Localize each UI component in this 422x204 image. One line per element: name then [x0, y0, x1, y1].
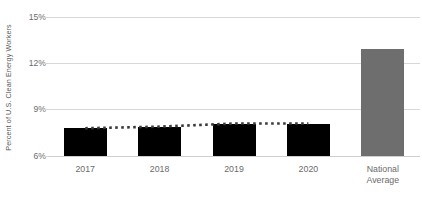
- x-tick-label-2018: 2018: [122, 164, 196, 175]
- x-tick-label-2017: 2017: [48, 164, 122, 175]
- x-tick-label-2020-line1: 2020: [271, 164, 345, 175]
- x-tick-label-national-average-line2: Average: [346, 175, 420, 186]
- tick-mark-15: [43, 17, 48, 18]
- x-tick-label-national-average-line1: National: [346, 164, 420, 175]
- bar-2018[interactable]: [138, 127, 181, 156]
- bar-rect-2017: [64, 128, 107, 156]
- gridline-15: [48, 17, 420, 18]
- x-tick-label-2020: 2020: [271, 164, 345, 175]
- bar-2020[interactable]: [287, 124, 330, 156]
- tick-mark-9: [43, 109, 48, 110]
- bar-rect-2020: [287, 124, 330, 156]
- x-tick-label-2019-line1: 2019: [197, 164, 271, 175]
- y-axis-title: Percent of U.S. Clean Energy Workers: [0, 0, 16, 175]
- x-tick-label-2018-line1: 2018: [122, 164, 196, 175]
- tick-mark-6: [43, 156, 48, 157]
- bar-2019[interactable]: [213, 124, 256, 156]
- x-tick-label-2017-line1: 2017: [48, 164, 122, 175]
- bar-rect-national-average: [361, 49, 404, 156]
- bar-2017[interactable]: [64, 128, 107, 156]
- bar-chart: Percent of U.S. Clean Energy Workers 15%…: [0, 0, 422, 204]
- tick-mark-12: [43, 63, 48, 64]
- bar-rect-2018: [138, 127, 181, 156]
- y-axis-tick-labels: 15% 12% 9% 6%: [16, 0, 46, 204]
- gridline-6-baseline: [48, 156, 420, 157]
- bar-rect-2019: [213, 124, 256, 156]
- plot-area: 2017 2018 2019 2020 National Average: [48, 0, 420, 204]
- x-tick-label-national-average: National Average: [346, 164, 420, 186]
- y-axis-title-text: Percent of U.S. Clean Energy Workers: [4, 24, 13, 151]
- bar-national-average[interactable]: [361, 49, 404, 156]
- x-tick-label-2019: 2019: [197, 164, 271, 175]
